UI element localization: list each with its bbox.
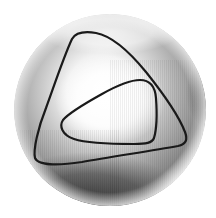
sphere-figure <box>0 0 216 218</box>
sphere-diagram <box>0 0 216 218</box>
sphere-body <box>0 10 216 218</box>
